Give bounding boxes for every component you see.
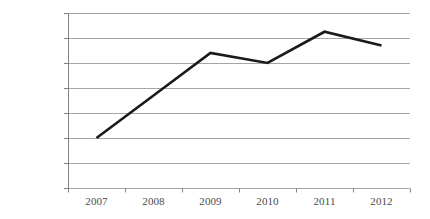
x-axis-tick-labels: 200720082009201020112012: [0, 0, 430, 219]
x-axis-label: 2009: [199, 195, 221, 207]
x-axis-label: 2010: [256, 195, 278, 207]
x-axis-label: 2008: [142, 195, 164, 207]
x-axis-label: 2007: [85, 195, 107, 207]
line-chart: 0%10%20%30%40%50%60%70% 2007200820092010…: [0, 0, 430, 219]
x-axis-label: 2012: [370, 195, 392, 207]
x-axis-label: 2011: [314, 195, 336, 207]
